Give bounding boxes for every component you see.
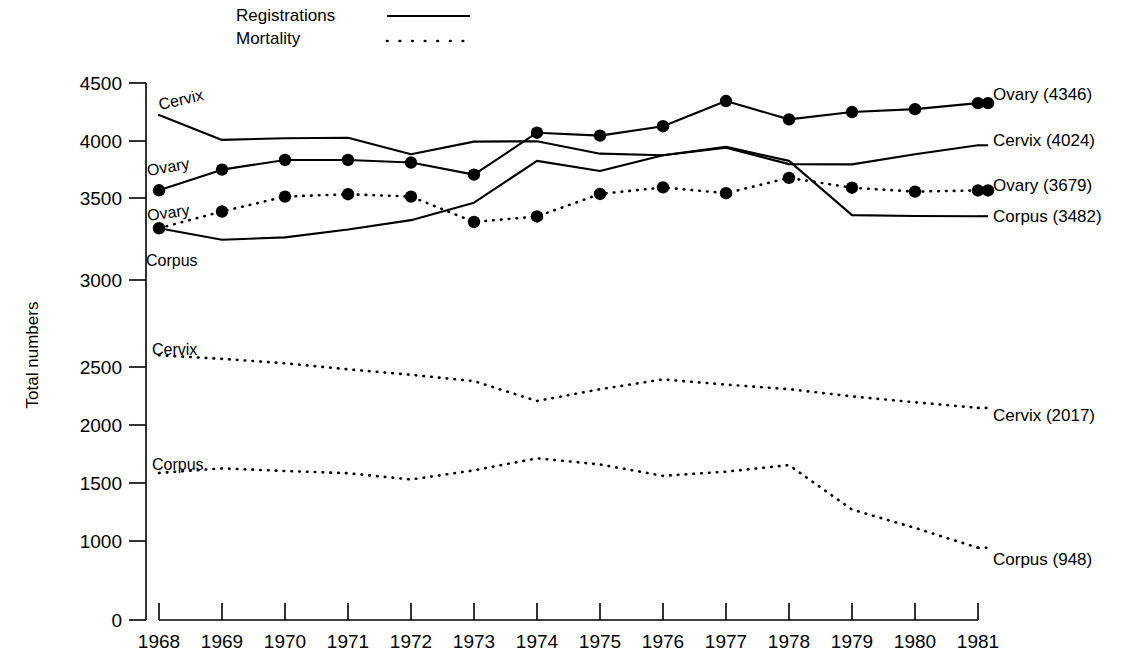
- data-point-marker: [846, 181, 858, 193]
- x-tick-label-1976: 1976: [642, 631, 684, 652]
- data-point-marker: [720, 187, 732, 199]
- series-path-cervix-mortality: [159, 355, 978, 408]
- data-point-marker: [846, 106, 858, 118]
- y-axis: 4500 4000 3500 3000 2500 2000 1500 1000 …: [23, 73, 146, 631]
- data-point-marker: [153, 184, 165, 196]
- data-point-marker: [594, 188, 606, 200]
- x-tick-label-1980: 1980: [894, 631, 936, 652]
- data-point-marker: [279, 190, 291, 202]
- y-axis-title: Total numbers: [23, 302, 42, 409]
- line-chart-canvas: Registrations Mortality 4500 4000 3500 3…: [0, 0, 1144, 668]
- y-tick-label-1500: 1500: [80, 473, 122, 494]
- data-point-marker: [468, 216, 480, 228]
- y-tick-label-0: 0: [111, 610, 122, 631]
- series-path-corpus-mortality: [159, 458, 978, 548]
- data-point-marker: [657, 120, 669, 132]
- data-point-marker: [909, 103, 921, 115]
- y-tick-label-1000: 1000: [80, 531, 122, 552]
- right-label-ovary-mortality: Ovary (3679): [993, 176, 1092, 195]
- y-tick-label-3000: 3000: [80, 270, 122, 291]
- data-point-marker: [405, 156, 417, 168]
- x-axis: 1968 1969 1970 1971 1972 1973 1974 1975 …: [138, 603, 999, 652]
- y-tick-label-2000: 2000: [80, 415, 122, 436]
- x-tick-label-1977: 1977: [705, 631, 747, 652]
- data-point-marker: [531, 210, 543, 222]
- x-tick-label-1969: 1969: [201, 631, 243, 652]
- ovary-registrations-label: Ovary: [146, 155, 191, 179]
- series-layer: [153, 95, 994, 548]
- data-point-marker: [153, 222, 165, 234]
- right-label-ovary-registrations: Ovary (4346): [993, 85, 1092, 104]
- x-tick-label-1971: 1971: [327, 631, 369, 652]
- data-point-marker: [279, 154, 291, 166]
- right-label-corpus-mortality: Corpus (948): [993, 550, 1092, 569]
- data-point-marker: [657, 181, 669, 193]
- ovary-mortality-label: Ovary: [146, 201, 191, 224]
- data-point-marker: [342, 188, 354, 200]
- right-label-corpus-registrations: Corpus (3482): [993, 207, 1102, 226]
- legend-item-registrations-label: Registrations: [236, 6, 335, 25]
- corpus-registrations-label: Corpus: [146, 252, 198, 269]
- data-point-marker: [783, 113, 795, 125]
- x-tick-label-1978: 1978: [768, 631, 810, 652]
- y-tick-label-4000: 4000: [80, 131, 122, 152]
- y-tick-label-4500: 4500: [80, 73, 122, 94]
- legend-item-mortality-label: Mortality: [236, 29, 301, 48]
- x-tick-label-1970: 1970: [264, 631, 306, 652]
- data-point-marker: [720, 95, 732, 107]
- right-label-cervix-mortality: Cervix (2017): [993, 406, 1095, 425]
- x-tick-label-1973: 1973: [453, 631, 495, 652]
- x-tick-label-1972: 1972: [390, 631, 432, 652]
- corpus-mortality-label: Corpus: [152, 456, 204, 473]
- cervix-mortality-label: Cervix: [152, 341, 197, 358]
- x-tick-label-1981: 1981: [957, 631, 999, 652]
- x-tick-label-1979: 1979: [831, 631, 873, 652]
- cervix-registrations-label: Cervix: [157, 86, 205, 113]
- data-point-marker: [216, 163, 228, 175]
- data-point-marker: [531, 127, 543, 139]
- chart-figure: Registrations Mortality 4500 4000 3500 3…: [0, 0, 1144, 668]
- y-tick-label-3500: 3500: [80, 188, 122, 209]
- data-point-marker: [594, 129, 606, 141]
- data-point-marker: [216, 205, 228, 217]
- y-tick-label-2500: 2500: [80, 357, 122, 378]
- data-point-marker: [909, 185, 921, 197]
- right-label-cervix-registrations: Cervix (4024): [993, 131, 1095, 150]
- data-point-marker: [342, 154, 354, 166]
- data-point-marker: [405, 190, 417, 202]
- right-end-labels: Ovary (4346) Cervix (4024) Ovary (3679) …: [993, 85, 1102, 569]
- inline-series-labels: Cervix Ovary Ovary Corpus Cervix Corpus: [146, 86, 205, 473]
- x-tick-label-1974: 1974: [516, 631, 559, 652]
- data-point-marker: [468, 168, 480, 180]
- chart-legend: Registrations Mortality: [236, 6, 470, 48]
- x-tick-label-1968: 1968: [138, 631, 180, 652]
- x-tick-label-1975: 1975: [579, 631, 621, 652]
- data-point-marker: [783, 172, 795, 184]
